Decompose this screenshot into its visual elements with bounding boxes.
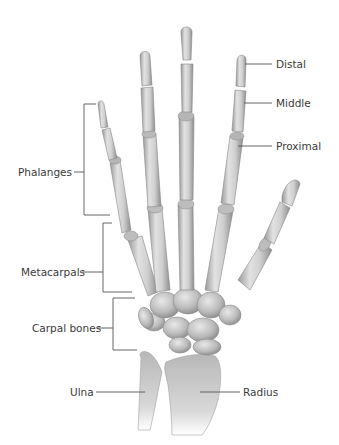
radius-bone (165, 354, 221, 435)
label-carpal-bones: Carpal bones (32, 322, 101, 334)
carpal-bones-cluster (136, 288, 241, 355)
label-phalanges: Phalanges (18, 166, 72, 178)
thumb-bones (238, 180, 300, 290)
hand-skeleton-diagram: Distal Middle Proximal Phalanges Metacar… (0, 0, 339, 445)
label-ulna: Ulna (70, 386, 94, 398)
label-proximal: Proximal (276, 140, 321, 152)
label-distal: Distal (276, 58, 306, 70)
label-middle: Middle (276, 97, 311, 109)
carpal-bracket (113, 298, 137, 350)
label-metacarpals: Metacarpals (21, 266, 85, 278)
index-finger-bones (205, 55, 246, 292)
label-radius: Radius (243, 386, 278, 398)
middle-finger-bones (178, 27, 194, 290)
ulna-bone (138, 351, 162, 430)
